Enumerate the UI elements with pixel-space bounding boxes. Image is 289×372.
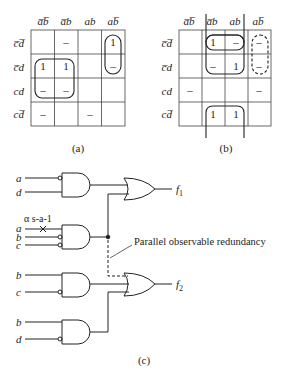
kmap-b-col-header: a̅b̅ bbox=[184, 15, 196, 27]
kmap-b: a̅b̅ a̅b ab ab̅ c̅d̅ c̅d cd cd̅ 1 – – – … bbox=[161, 14, 271, 155]
or-gate-1 bbox=[124, 178, 172, 200]
kmap-b-row-header: c̅d̅ bbox=[161, 37, 173, 49]
kmap-a-cell: – bbox=[109, 60, 116, 72]
and-gate-3 bbox=[25, 273, 129, 297]
kmap-a-cell: 1 bbox=[110, 36, 116, 48]
input-label-b: b bbox=[16, 316, 22, 328]
kmap-a-col-header: ab bbox=[85, 15, 97, 27]
or-gate-2 bbox=[124, 273, 172, 296]
kmap-b-cell: 1 bbox=[210, 36, 216, 48]
input-label-d: d bbox=[16, 333, 22, 345]
kmap-a-row-header: cd bbox=[14, 85, 25, 97]
input-label-c: c bbox=[16, 286, 21, 298]
kmap-b-col-header: ab̅ bbox=[253, 15, 265, 27]
kmap-a-col-header: a̅b̅ bbox=[38, 15, 50, 27]
kmap-b-cell: – bbox=[232, 36, 239, 48]
kmap-b-col-header: a̅b bbox=[207, 15, 219, 27]
circuit bbox=[25, 173, 172, 344]
circuit-labels: a d α s-a-1 a b c b c b d f1 f2 Parallel… bbox=[16, 172, 267, 367]
and-gate-4 bbox=[25, 292, 129, 344]
kmap-b-cell: 1 bbox=[210, 108, 216, 120]
fault-label: α s-a-1 bbox=[24, 213, 52, 224]
annotation-leader bbox=[110, 245, 132, 258]
kmap-a-row-header: c̅d̅ bbox=[13, 37, 25, 49]
and-gate-2 bbox=[25, 225, 108, 249]
kmap-b-row-header: cd̅ bbox=[162, 108, 174, 120]
kmap-b-cell: – bbox=[255, 60, 262, 72]
kmap-b-cell: 1 bbox=[233, 60, 239, 72]
circuit-caption: (c) bbox=[138, 354, 151, 367]
kmap-b-row-header: cd bbox=[162, 85, 173, 97]
input-label-c: c bbox=[16, 239, 21, 251]
kmap-b-cell: – bbox=[255, 84, 262, 96]
figure: a̅b̅ a̅b ab ab̅ c̅d̅ c̅d cd cd̅ – 1 1 1 … bbox=[0, 0, 289, 372]
kmap-a-cell: – bbox=[39, 108, 46, 120]
kmap-a-cell: 1 bbox=[63, 60, 69, 72]
output-label-f2: f2 bbox=[176, 278, 183, 293]
kmap-a-col-header: a̅b bbox=[61, 15, 73, 27]
kmap-a-cell: – bbox=[62, 36, 69, 48]
kmap-b-caption: (b) bbox=[220, 142, 233, 155]
kmap-a-cell: – bbox=[86, 108, 93, 120]
kmap-b-cell: – bbox=[255, 36, 262, 48]
kmap-b-cell: 1 bbox=[233, 108, 239, 120]
kmap-a-row-header: c̅d bbox=[13, 61, 24, 73]
kmap-b-cell: – bbox=[209, 60, 216, 72]
input-label-a: a bbox=[16, 172, 22, 184]
kmap-a-caption: (a) bbox=[72, 142, 85, 155]
kmap-a-cell: 1 bbox=[40, 60, 46, 72]
and-gate-1 bbox=[25, 173, 128, 197]
kmap-b-col-header: ab bbox=[230, 15, 242, 27]
kmap-a-col-header: ab̅ bbox=[108, 15, 120, 27]
output-label-f1: f1 bbox=[176, 183, 183, 198]
input-label-b: b bbox=[16, 269, 22, 281]
junction-dot bbox=[106, 235, 110, 239]
kmap-a: a̅b̅ a̅b ab ab̅ c̅d̅ c̅d cd cd̅ – 1 1 1 … bbox=[13, 15, 125, 155]
annotation-text: Parallel observable redundancy bbox=[134, 236, 267, 247]
kmap-a-row-header: cd̅ bbox=[14, 108, 26, 120]
input-label-d: d bbox=[16, 186, 22, 198]
redundancy-dashed-line bbox=[108, 240, 128, 276]
kmap-a-cell: – bbox=[62, 84, 69, 96]
kmap-a-cell: – bbox=[39, 84, 46, 96]
kmap-b-cell: – bbox=[186, 84, 193, 96]
kmap-b-row-header: c̅d bbox=[161, 61, 172, 73]
